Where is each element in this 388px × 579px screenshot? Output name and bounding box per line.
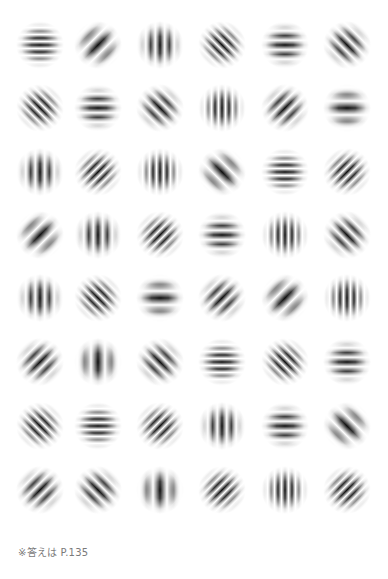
gabor-patch bbox=[319, 80, 375, 136]
gabor-patch bbox=[257, 144, 313, 200]
gabor-patch bbox=[257, 398, 313, 454]
gabor-patch bbox=[132, 334, 188, 390]
gabor-patch bbox=[12, 207, 68, 263]
gabor-patch bbox=[12, 144, 68, 200]
gabor-patch bbox=[70, 462, 126, 518]
gabor-patch bbox=[70, 144, 126, 200]
gabor-patch bbox=[257, 334, 313, 390]
gabor-patch bbox=[12, 462, 68, 518]
gabor-patch bbox=[132, 80, 188, 136]
gabor-patch bbox=[12, 398, 68, 454]
gabor-patch bbox=[132, 462, 188, 518]
gabor-patch bbox=[70, 334, 126, 390]
gabor-patch bbox=[132, 144, 188, 200]
gabor-patch bbox=[132, 17, 188, 73]
gabor-patch bbox=[319, 17, 375, 73]
gabor-patch bbox=[319, 144, 375, 200]
gabor-patch bbox=[70, 207, 126, 263]
gabor-patch bbox=[194, 144, 250, 200]
gabor-patch bbox=[194, 17, 250, 73]
gabor-patch bbox=[319, 334, 375, 390]
answer-page-note: ※答えは P.135 bbox=[18, 544, 88, 559]
gabor-patch bbox=[194, 398, 250, 454]
gabor-patch bbox=[70, 80, 126, 136]
gabor-patch bbox=[257, 462, 313, 518]
gabor-patch bbox=[12, 80, 68, 136]
gabor-patch bbox=[257, 80, 313, 136]
gabor-patch-grid bbox=[0, 0, 388, 530]
gabor-patch bbox=[194, 270, 250, 326]
gabor-patch bbox=[319, 462, 375, 518]
gabor-patch bbox=[70, 398, 126, 454]
gabor-patch bbox=[319, 207, 375, 263]
gabor-patch bbox=[194, 462, 250, 518]
gabor-patch bbox=[132, 270, 188, 326]
gabor-patch bbox=[12, 17, 68, 73]
gabor-patch bbox=[319, 270, 375, 326]
gabor-patch bbox=[257, 207, 313, 263]
gabor-patch bbox=[132, 398, 188, 454]
gabor-patch bbox=[194, 334, 250, 390]
gabor-patch bbox=[70, 17, 126, 73]
gabor-patch bbox=[132, 207, 188, 263]
gabor-patch bbox=[12, 270, 68, 326]
gabor-patch bbox=[194, 207, 250, 263]
gabor-patch bbox=[70, 270, 126, 326]
gabor-patch bbox=[12, 334, 68, 390]
gabor-patch bbox=[319, 398, 375, 454]
gabor-patch bbox=[257, 17, 313, 73]
gabor-patch bbox=[194, 80, 250, 136]
gabor-patch bbox=[257, 270, 313, 326]
